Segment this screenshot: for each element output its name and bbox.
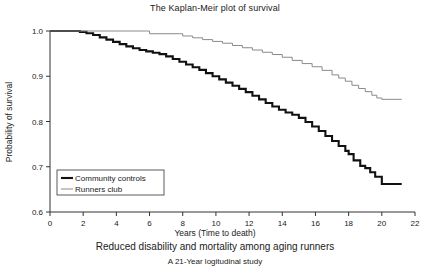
x-tick-label: 0 (48, 219, 53, 228)
y-tick-label: 0.7 (32, 163, 44, 172)
x-tick-label: 2 (81, 219, 86, 228)
x-tick-label: 4 (114, 219, 119, 228)
x-tick-label: 14 (278, 219, 287, 228)
caption-main: Reduced disability and mortality among a… (0, 241, 430, 252)
x-tick-label: 8 (181, 219, 186, 228)
y-tick-label: 0.8 (32, 118, 44, 127)
axes: 02468101214161820220.60.70.80.91.0 (32, 27, 420, 228)
y-tick-label: 0.6 (32, 208, 44, 217)
y-tick-label: 1.0 (32, 27, 44, 36)
x-tick-label: 12 (245, 219, 254, 228)
survival-curves (50, 31, 402, 184)
y-tick-label: 0.9 (32, 72, 44, 81)
curve-runners-club (50, 31, 402, 99)
curve-community-controls (50, 31, 402, 184)
x-tick-label: 18 (344, 219, 353, 228)
legend-label-runners-club[interactable]: Runners club (75, 185, 123, 194)
x-tick-label: 16 (311, 219, 320, 228)
x-tick-label: 20 (377, 219, 386, 228)
legend-label-community-controls[interactable]: Community controls (75, 174, 146, 183)
x-tick-label: 6 (147, 219, 152, 228)
legend[interactable]: Community controlsRunners club (57, 170, 164, 195)
kaplan-meier-figure: The Kaplan-Meir plot of survival Probabi… (0, 0, 430, 272)
x-tick-label: 22 (411, 219, 420, 228)
x-axis-label: Years (Time to death) (0, 228, 430, 238)
x-tick-label: 10 (211, 219, 220, 228)
caption-sub: A 21-Year logitudinal study (0, 257, 430, 266)
